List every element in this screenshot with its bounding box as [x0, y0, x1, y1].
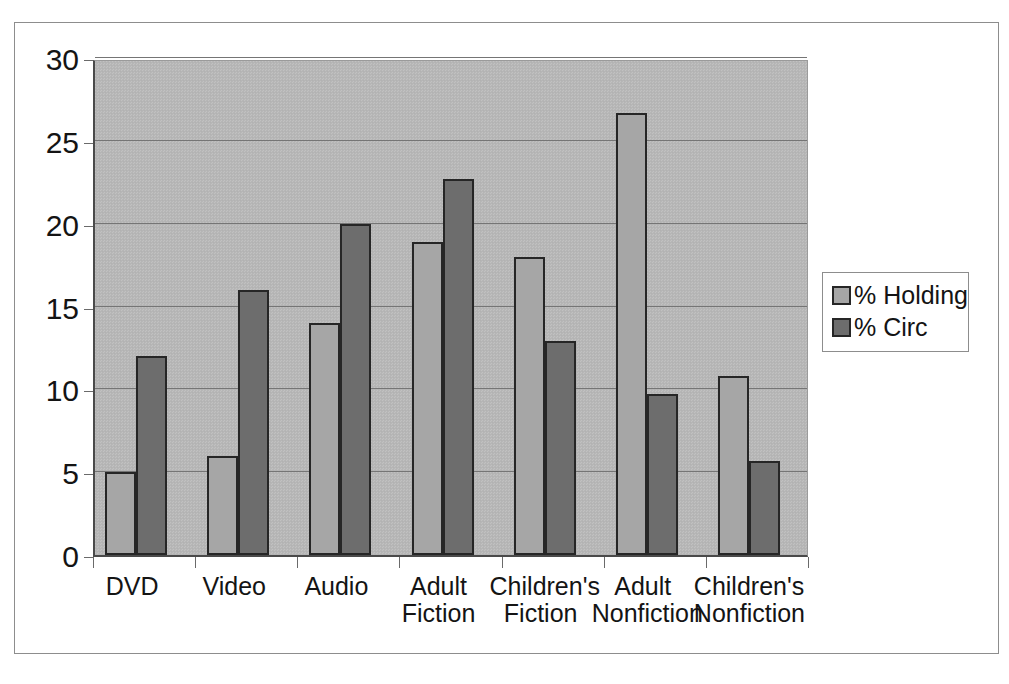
bar [207, 456, 238, 555]
chart-legend: % Holding % Circ [822, 272, 969, 352]
x-axis-category-label: Audio [285, 573, 387, 600]
bars-layer [95, 61, 807, 555]
x-axis-category-label: Adult Nonfiction [592, 573, 694, 627]
x-axis-tick-mark [706, 557, 707, 568]
y-axis-tick-mark [84, 60, 93, 61]
bar [136, 356, 167, 555]
y-axis-tick-mark [84, 226, 93, 227]
plot-area [93, 60, 808, 557]
y-axis-tick-mark [84, 309, 93, 310]
x-axis-tick-mark [502, 557, 503, 568]
x-axis: DVDVideoAudioAdult FictionChildren's Fic… [93, 557, 808, 657]
y-axis-tick-label: 5 [62, 459, 79, 489]
y-axis-tick-label: 20 [46, 211, 79, 241]
x-axis-category-label: Children's Nonfiction [694, 573, 796, 627]
bar [514, 257, 545, 555]
legend-swatch-holding-icon [832, 286, 851, 305]
y-axis: 051015202530 [0, 0, 93, 684]
bar [105, 472, 136, 555]
x-axis-tick-mark [93, 557, 94, 568]
bar [718, 376, 749, 555]
x-axis-tick-mark [604, 557, 605, 568]
y-axis-tick-mark [84, 391, 93, 392]
legend-swatch-circ-icon [832, 318, 851, 337]
y-axis-tick-label: 15 [46, 294, 79, 324]
bar-chart: 051015202530 DVDVideoAudioAdult FictionC… [0, 0, 1009, 684]
x-axis-category-label: Children's Fiction [490, 573, 592, 627]
y-axis-tick-mark [84, 474, 93, 475]
bar [340, 224, 371, 555]
x-axis-category-label: DVD [81, 573, 183, 600]
bar [309, 323, 340, 555]
gridline [95, 57, 807, 58]
y-axis-tick-label: 0 [62, 542, 79, 572]
x-axis-category-label: Video [183, 573, 285, 600]
y-axis-tick-mark [84, 557, 93, 558]
legend-label: % Holding [854, 283, 968, 308]
legend-item[interactable]: % Circ [832, 311, 958, 343]
x-axis-tick-mark [808, 557, 809, 568]
bar [412, 242, 443, 555]
bar [238, 290, 269, 555]
y-axis-tick-label: 30 [46, 45, 79, 75]
y-axis-tick-label: 10 [46, 376, 79, 406]
bar [749, 461, 780, 555]
x-axis-tick-mark [399, 557, 400, 568]
x-axis-tick-mark [195, 557, 196, 568]
legend-label: % Circ [854, 315, 928, 340]
bar [616, 113, 647, 555]
bar [443, 179, 474, 555]
x-axis-tick-mark [297, 557, 298, 568]
bar [545, 341, 576, 555]
x-axis-category-label: Adult Fiction [387, 573, 489, 627]
bar [647, 394, 678, 555]
legend-item[interactable]: % Holding [832, 279, 958, 311]
y-axis-tick-label: 25 [46, 128, 79, 158]
y-axis-tick-mark [84, 143, 93, 144]
